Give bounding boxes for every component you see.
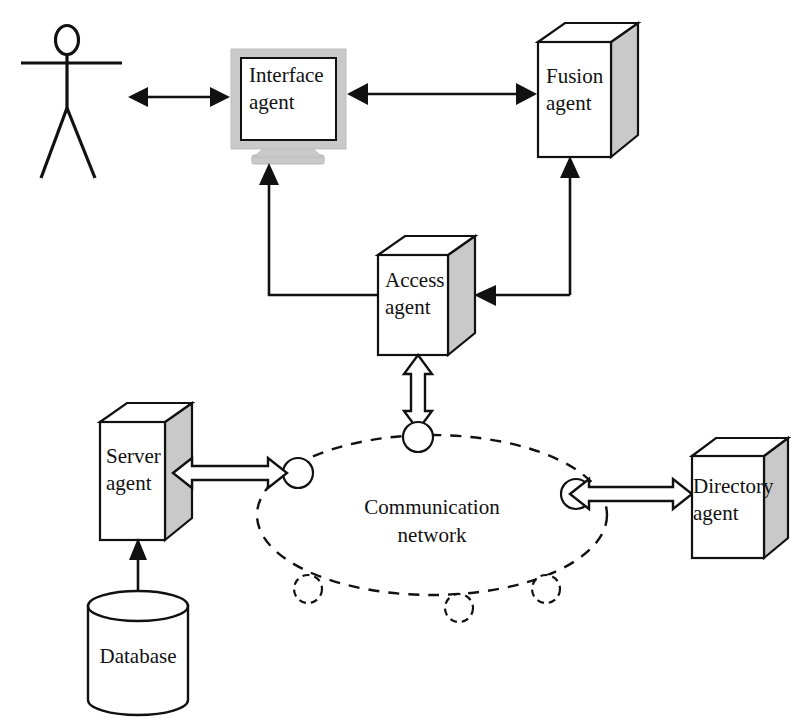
node-label-access-agent-line2: agent bbox=[385, 295, 431, 319]
connection-access-to-fusion bbox=[560, 156, 580, 295]
connection-server-to-network bbox=[173, 458, 287, 488]
architecture-diagram: Interface agent Fusion agent Access agen… bbox=[0, 0, 803, 721]
node-interface-agent[interactable]: Interface agent bbox=[231, 49, 346, 164]
hollow-double-arrow-vertical bbox=[404, 355, 432, 430]
connection-interface-to-fusion bbox=[347, 83, 537, 105]
node-label-server-agent-line1: Server bbox=[106, 444, 161, 468]
node-access-agent[interactable]: Access agent bbox=[378, 236, 475, 355]
node-directory-agent[interactable]: Directory agent bbox=[692, 438, 788, 558]
node-fusion-agent[interactable]: Fusion agent bbox=[538, 23, 638, 157]
connection-database-to-server bbox=[129, 538, 147, 592]
node-label-server-agent-line2: agent bbox=[106, 471, 152, 495]
node-label-database: Database bbox=[100, 644, 177, 668]
network-node-bottom-left[interactable] bbox=[294, 575, 322, 603]
hollow-double-arrow-horizontal bbox=[570, 479, 692, 509]
stick-figure-right-leg bbox=[67, 108, 95, 178]
arrowhead-up bbox=[259, 163, 279, 185]
arrowhead-right bbox=[210, 87, 230, 107]
node-label-directory-agent-line2: agent bbox=[693, 501, 739, 525]
network-node-bottom[interactable] bbox=[445, 594, 473, 622]
arrowhead-up bbox=[560, 156, 580, 178]
node-label-fusion-agent-line2: agent bbox=[546, 91, 592, 115]
node-label-access-agent-line1: Access bbox=[385, 268, 444, 292]
diagram-canvas: Interface agent Fusion agent Access agen… bbox=[0, 0, 803, 721]
arrowhead-right bbox=[516, 83, 537, 105]
node-label-communication-network-line2: network bbox=[398, 523, 467, 547]
network-node-top[interactable] bbox=[403, 422, 433, 452]
node-communication-network[interactable]: Communication network bbox=[257, 422, 607, 622]
node-database[interactable]: Database bbox=[88, 591, 188, 715]
connection-access-to-network bbox=[404, 355, 432, 430]
connection-user-to-interface bbox=[128, 87, 230, 107]
box-side-face bbox=[611, 23, 638, 157]
node-label-fusion-agent-line1: Fusion bbox=[546, 64, 604, 88]
arrowhead-left bbox=[128, 87, 148, 107]
network-node-bottom-right[interactable] bbox=[532, 575, 560, 603]
connection-fusion-to-access bbox=[474, 285, 570, 306]
node-label-directory-agent-line1: Directory bbox=[693, 474, 774, 498]
user-actor[interactable] bbox=[21, 26, 122, 179]
box-side-face bbox=[448, 236, 475, 355]
arrowhead-up bbox=[129, 538, 147, 560]
hollow-double-arrow-horizontal bbox=[173, 458, 287, 488]
arrowhead-left bbox=[347, 83, 368, 105]
stick-figure-head-icon bbox=[56, 26, 79, 55]
arrowhead-left bbox=[474, 285, 496, 306]
node-label-interface-agent-line1: Interface bbox=[249, 63, 324, 87]
box-side-face bbox=[764, 438, 788, 558]
node-label-communication-network-line1: Communication bbox=[364, 495, 500, 519]
node-label-interface-agent-line2: agent bbox=[249, 90, 295, 114]
stick-figure-left-leg bbox=[41, 108, 67, 178]
connection-network-to-directory bbox=[570, 479, 692, 509]
database-cylinder-top bbox=[88, 591, 188, 621]
